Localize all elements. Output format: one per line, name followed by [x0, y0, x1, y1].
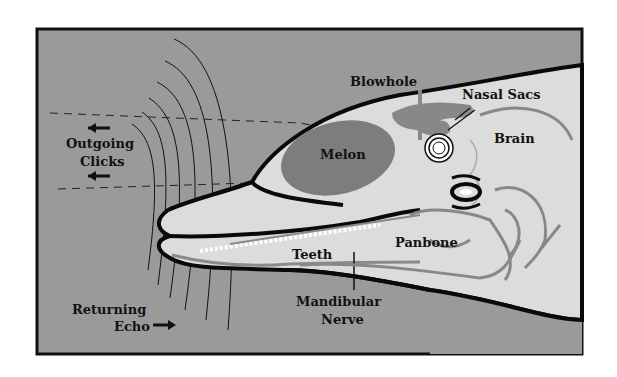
label-returning: Returning — [72, 302, 146, 317]
label-outgoing: Outgoing — [66, 136, 134, 151]
label-mandibular: Mandibular — [296, 294, 381, 309]
label-panbone: Panbone — [395, 235, 458, 250]
label-teeth: Teeth — [292, 247, 333, 262]
label-brain: Brain — [494, 131, 535, 146]
label-clicks: Clicks — [80, 154, 124, 169]
label-nerve: Nerve — [321, 312, 364, 327]
label-melon: Melon — [320, 147, 366, 162]
label-echo: Echo — [114, 319, 150, 334]
dolphin-echolocation-diagram: Blowhole Nasal Sacs Brain Melon Panbone … — [0, 0, 617, 377]
label-nasal-sacs: Nasal Sacs — [462, 87, 541, 102]
sound-source — [425, 134, 453, 162]
label-blowhole: Blowhole — [350, 74, 417, 89]
